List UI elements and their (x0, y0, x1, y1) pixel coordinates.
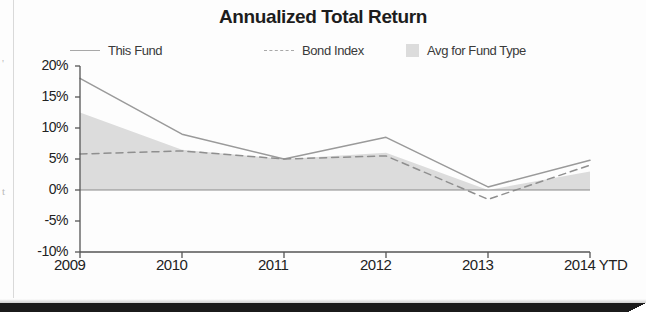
x-axis-tick-label: 2014 YTD (564, 256, 627, 273)
y-axis-tick-label: -5% (16, 212, 68, 228)
y-axis-tick-label: 0% (16, 181, 68, 197)
y-axis-tick-label: 10% (16, 119, 68, 135)
x-axis-tick-label: 2012 (360, 256, 391, 273)
x-axis-tick-label: 2011 (258, 256, 288, 273)
y-axis-tick-label: 15% (16, 88, 68, 104)
chart-figure: ' t Annualized Total Return This Fund Bo… (0, 0, 646, 312)
plot-svg (0, 0, 646, 290)
x-axis-tick-label: 2013 (462, 256, 493, 273)
plot-area (0, 0, 646, 290)
x-axis-tick-label: 2009 (54, 256, 85, 273)
y-axis-tick-label: 5% (16, 150, 68, 166)
bottom-dark-band (0, 303, 646, 312)
x-axis-tick-label: 2010 (156, 256, 187, 273)
y-axis-tick-label: 20% (16, 57, 68, 73)
